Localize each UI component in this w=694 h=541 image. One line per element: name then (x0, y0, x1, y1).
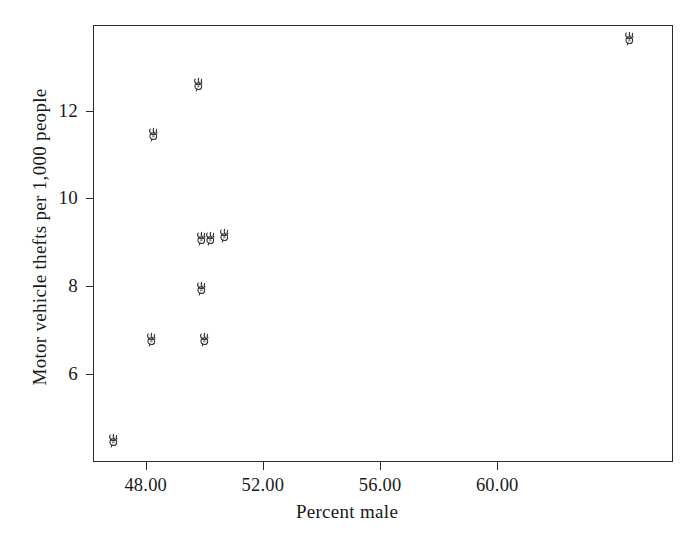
scatter-plot-figure: 681012 48.0052.0056.0060.00 Motor vehicl… (0, 0, 694, 541)
x-tick-label: 60.00 (442, 474, 552, 496)
y-axis-title: Motor vehicle thefts per 1,000 people (27, 7, 53, 467)
data-point (204, 231, 217, 246)
data-point (195, 281, 208, 296)
x-tick-mark (497, 462, 498, 470)
y-tick-mark (86, 198, 94, 199)
x-tick-mark (146, 462, 147, 470)
data-point (147, 127, 160, 142)
x-tick-label: 56.00 (325, 474, 435, 496)
x-tick-label: 48.00 (91, 474, 201, 496)
x-tick-mark (380, 462, 381, 470)
y-tick-mark (86, 286, 94, 287)
data-point (218, 228, 231, 243)
x-tick-label-text: 60.00 (442, 474, 552, 496)
data-point (198, 332, 211, 347)
x-axis-title: Percent male (0, 501, 694, 523)
data-point (192, 77, 205, 92)
data-point (623, 31, 636, 46)
plot-frame (93, 25, 673, 462)
x-tick-label: 52.00 (208, 474, 318, 496)
x-tick-label-text: 48.00 (91, 474, 201, 496)
x-tick-mark (263, 462, 264, 470)
data-point (107, 433, 120, 448)
x-tick-label-text: 52.00 (208, 474, 318, 496)
y-axis-title-text: Motor vehicle thefts per 1,000 people (27, 7, 53, 467)
x-tick-label-text: 56.00 (325, 474, 435, 496)
y-tick-mark (86, 111, 94, 112)
data-point (145, 332, 158, 347)
y-tick-mark (86, 374, 94, 375)
